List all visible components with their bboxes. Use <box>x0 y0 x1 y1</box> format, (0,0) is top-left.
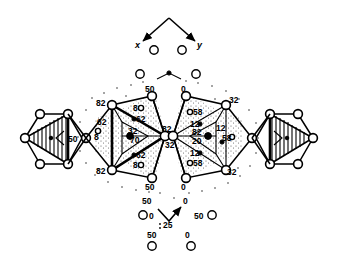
bottom-atom-group: 50 0 0 50 25 50 0 <box>139 196 216 250</box>
atom-filled <box>49 136 53 140</box>
atom-open <box>187 160 192 165</box>
y-axis-label: y <box>196 40 203 50</box>
label-l-in-70: 70 <box>130 135 140 145</box>
vertex <box>36 160 45 169</box>
label-l-ll-82: 82 <box>96 166 106 176</box>
atom-filled <box>285 136 289 140</box>
label-r-in-20: 20 <box>192 136 202 146</box>
label-r-top-0: 0 <box>181 84 186 94</box>
figure-canvas: x y <box>0 0 338 263</box>
label-b-left-0: 0 <box>149 211 154 221</box>
vertex <box>108 101 117 110</box>
top-atom-group <box>136 46 200 79</box>
y-axis-arrow <box>169 18 195 41</box>
label-l-left-62: 62 <box>97 117 107 127</box>
label-r-in-58a: 58 <box>193 107 203 117</box>
atom-open <box>150 46 158 54</box>
label-left-hex-50: 50 <box>68 134 78 144</box>
central-atom-right <box>205 133 212 140</box>
label-r-in-12c: 12 <box>216 123 226 133</box>
atom-open <box>208 211 216 219</box>
atom-open <box>136 70 144 78</box>
atom-open <box>187 109 192 114</box>
label-r-in-12b: 12 <box>190 148 200 158</box>
atom-open <box>178 46 186 54</box>
label-l-in-62a: 62 <box>136 114 146 124</box>
vertex <box>108 166 117 175</box>
x-axis-label: x <box>134 40 141 50</box>
vertex <box>36 110 45 119</box>
label-l-in-62b: 62 <box>136 150 146 160</box>
label-r-lr-32: 32 <box>227 167 237 177</box>
label-r-ur-32: 32 <box>229 95 239 105</box>
vertex <box>21 134 30 143</box>
label-l-top-50: 50 <box>145 84 155 94</box>
label-l-bot-50: 50 <box>145 182 155 192</box>
label-r-in-58b: 58 <box>193 158 203 168</box>
label-b-lowest-0: 0 <box>185 230 190 240</box>
atom-open <box>139 211 147 219</box>
left-hexagonal-cluster: 50 <box>21 110 91 169</box>
label-l-in-8a: 8 <box>133 103 138 113</box>
label-l-ul-82: 82 <box>96 98 106 108</box>
label-z-25: 25 <box>163 220 173 230</box>
z-tick-dot <box>159 227 161 229</box>
atom-open <box>138 105 143 110</box>
axis-indicator: x y <box>134 18 203 50</box>
label-l-in-8b: 8 <box>133 160 138 170</box>
z-axis-arrow <box>158 207 181 221</box>
atom-open <box>148 242 156 250</box>
label-r-mid-32: 32 <box>165 140 175 150</box>
vertex <box>294 160 303 169</box>
z-tick-dot <box>159 223 161 225</box>
atom-filled <box>167 71 171 75</box>
structure-diagram: x y <box>0 0 338 263</box>
label-l-left-8: 8 <box>94 132 99 142</box>
link-edge <box>252 114 270 138</box>
label-bottom-50-upper: 50 <box>142 196 152 206</box>
vertex <box>294 110 303 119</box>
atom-open <box>192 70 200 78</box>
label-r-in-58c: 58 <box>222 133 232 143</box>
right-hexagonal-cluster <box>248 110 318 169</box>
link-edge <box>252 138 270 164</box>
atom-open <box>187 242 195 250</box>
label-bottom-0-upper: 0 <box>183 196 188 206</box>
label-r-bot-0: 0 <box>181 182 186 192</box>
label-b-lowest-50: 50 <box>147 230 157 240</box>
atom-open <box>138 162 143 167</box>
vertex <box>309 134 318 143</box>
label-b-right-50: 50 <box>194 211 204 221</box>
x-axis-arrow <box>143 18 169 41</box>
